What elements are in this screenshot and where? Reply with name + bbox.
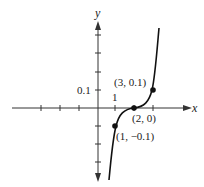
- point-label-1-neg0.1: (1, −0.1): [116, 130, 155, 143]
- y-axis: y 0.1: [77, 6, 101, 182]
- x-axis-arrow-icon: [183, 105, 192, 111]
- y-axis-down-arrow-icon: [95, 173, 101, 182]
- cubic-curve: [109, 28, 159, 180]
- point-2-0: [131, 105, 137, 111]
- point-label-2-0: (2, 0): [132, 112, 156, 125]
- x-axis: x 1: [12, 91, 198, 115]
- cubic-function-graph: x 1 y 0.1 (1, −0.1) (2, 0) (3, 0.1): [0, 0, 204, 187]
- point-label-3-0.1: (3, 0.1): [114, 76, 146, 89]
- x-axis-label: x: [191, 101, 198, 115]
- y-tick-label-0.1: 0.1: [77, 84, 91, 96]
- y-axis-up-arrow-icon: [95, 21, 101, 30]
- labeled-points: (1, −0.1) (2, 0) (3, 0.1): [112, 76, 156, 143]
- y-axis-label: y: [94, 6, 101, 20]
- point-1-neg0.1: [112, 123, 118, 129]
- point-3-0.1: [150, 87, 156, 93]
- x-tick-label-1: 1: [112, 91, 118, 103]
